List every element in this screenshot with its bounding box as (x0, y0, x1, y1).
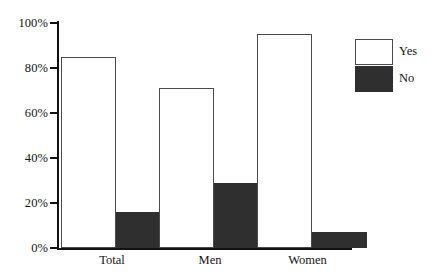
bar-chart: 100% 80% 60% 40% 20% 0% Total Men Women … (0, 0, 438, 279)
x-category-label-men: Men (170, 253, 250, 267)
bar-women-yes (257, 34, 312, 248)
x-category-label-total: Total (72, 253, 152, 267)
y-axis-labels: 100% 80% 60% 40% 20% 0% (0, 0, 48, 279)
y-tick-label-0: 0% (2, 242, 48, 254)
y-tick-label-40: 40% (2, 152, 48, 164)
bars-layer (57, 23, 352, 248)
chart-legend: Yes No (355, 39, 435, 93)
legend-item-no: No (355, 66, 435, 93)
legend-label-yes: Yes (399, 44, 417, 58)
legend-swatch-no-icon (355, 66, 393, 92)
legend-label-no: No (399, 71, 414, 85)
y-tick-label-60: 60% (2, 107, 48, 119)
x-axis-line (57, 248, 352, 250)
y-tick-label-20: 20% (2, 197, 48, 209)
bar-total-yes (61, 57, 116, 248)
legend-swatch-yes-icon (355, 39, 393, 65)
x-category-label-women: Women (265, 253, 350, 267)
legend-item-yes: Yes (355, 39, 435, 66)
y-tick-label-80: 80% (2, 62, 48, 74)
y-tick-label-100: 100% (2, 17, 48, 29)
bar-men-yes (159, 88, 214, 248)
bar-women-no (312, 232, 367, 248)
